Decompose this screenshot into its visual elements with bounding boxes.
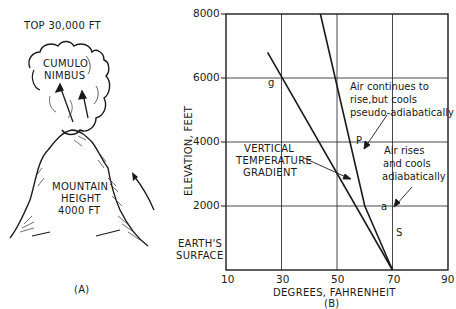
vtg-label-line2: TEMPERATURE [236, 155, 312, 166]
ytick-6000: 6000 [193, 71, 220, 83]
label-g: g [268, 76, 274, 89]
x-axis-title: DEGREES, FAHRENHEIT [273, 287, 396, 298]
grid-lines [226, 14, 448, 270]
pseudo-adiabatic-line2: rise,but cools [350, 93, 417, 106]
ytick-8000: 8000 [193, 7, 220, 19]
label-s: S [396, 226, 402, 239]
adiabatic-line3: adiabatically [382, 170, 446, 183]
label-p: P [356, 134, 362, 147]
ytick-2000: 2000 [193, 199, 220, 211]
pseudo-adiabatic-line1: Air continues to [350, 80, 429, 93]
xtick-10: 10 [221, 273, 234, 285]
xtick-70: 70 [387, 273, 400, 285]
label-a: a [381, 200, 387, 213]
vtg-label-line1: VERTICAL [244, 143, 294, 154]
vtg-label-line3: GRADIENT [243, 167, 297, 178]
earth-surface-label-line1: EARTH'S [178, 238, 222, 249]
ytick-4000: 4000 [193, 135, 220, 147]
pseudo-adiabatic-line3: pseudo-adiabatically [350, 106, 454, 119]
adiabatic-line1: Air rises [384, 144, 424, 157]
panel-b-caption: (B) [324, 298, 340, 309]
xtick-30: 30 [276, 273, 289, 285]
adiabatic-line2: and cools [383, 157, 431, 170]
xtick-90: 90 [441, 273, 454, 285]
y-axis-title: ELEVATION, FEET [183, 106, 194, 196]
earth-surface-label-line2: SURFACE [176, 250, 224, 261]
xtick-50: 50 [331, 273, 344, 285]
